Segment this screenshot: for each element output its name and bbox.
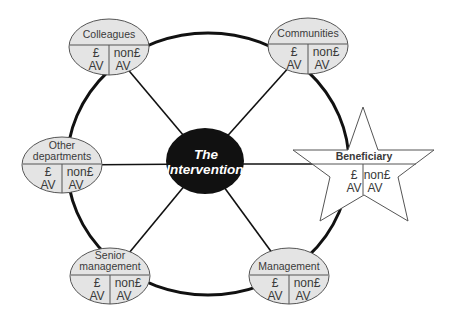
non-money-label: non£ — [294, 276, 321, 290]
money-symbol: £ — [351, 168, 358, 182]
non-money-label: non£ — [67, 165, 94, 179]
non-money-label: non£ — [313, 45, 340, 59]
node-beneficiary: Beneficiary £ AV non£ AV — [293, 107, 434, 221]
intervention-diagram: The Intervention Colleagues £ AV non£ AV… — [0, 0, 456, 321]
node-label-line2: management — [79, 260, 140, 272]
av-label: AV — [367, 181, 382, 195]
av-label: AV — [40, 178, 55, 192]
money-symbol: £ — [93, 46, 100, 60]
av-label: AV — [68, 178, 83, 192]
money-symbol: £ — [45, 165, 52, 179]
av-label: AV — [295, 289, 310, 303]
money-symbol: £ — [272, 276, 279, 290]
node-colleagues: Colleagues £ AV non£ AV — [69, 19, 149, 75]
money-symbol: £ — [291, 45, 298, 59]
non-money-label: non£ — [114, 46, 141, 60]
node-label: Communities — [277, 27, 338, 39]
node-label: Colleagues — [83, 28, 136, 40]
av-label: AV — [346, 181, 361, 195]
node-other-departments: Other departments £ AV non£ AV — [22, 137, 102, 193]
center-line2: Intervention — [166, 162, 243, 177]
av-label: AV — [314, 58, 329, 72]
node-label: Management — [258, 260, 319, 272]
non-money-label: non£ — [115, 276, 142, 290]
av-label: AV — [89, 289, 104, 303]
node-label-line2: departments — [33, 150, 91, 162]
money-symbol: £ — [94, 276, 101, 290]
av-label: AV — [286, 58, 301, 72]
node-senior-management: Senior management £ AV non£ AV — [70, 248, 150, 304]
node-management: Management £ AV non£ AV — [249, 248, 329, 304]
center-node: The Intervention — [166, 128, 244, 194]
non-money-label: non£ — [364, 168, 391, 182]
node-label: Beneficiary — [336, 150, 393, 162]
av-label: AV — [115, 59, 130, 73]
node-communities: Communities £ AV non£ AV — [268, 18, 348, 74]
av-label: AV — [116, 289, 131, 303]
center-line1: The — [194, 147, 218, 162]
av-label: AV — [267, 289, 282, 303]
av-label: AV — [88, 59, 103, 73]
